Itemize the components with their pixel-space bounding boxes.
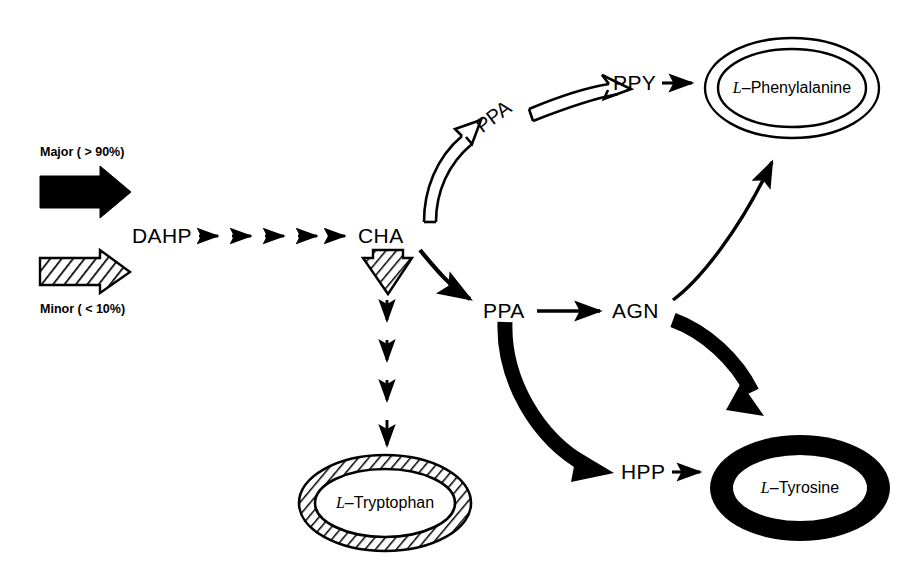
edge-ppa-to-hpp-major — [505, 322, 614, 482]
pathway-diagram: Major ( > 90%) Minor ( < 10%) DAHP CHA P… — [0, 0, 919, 575]
tyrosine-name: Tyrosine — [779, 479, 839, 496]
node-dahp[interactable]: DAHP — [132, 225, 192, 246]
node-hpp[interactable]: HPP — [621, 461, 665, 482]
tryptophan-stereo-prefix: L — [336, 494, 345, 511]
product-phenylalanine-label: L–Phenylalanine — [692, 80, 892, 96]
edge-cha-to-ppa — [420, 250, 470, 299]
edge-cha-minor-hatched-arrow — [363, 250, 412, 294]
legend-major-arrow — [40, 166, 131, 218]
node-ppy[interactable]: PPY — [613, 72, 656, 93]
phenylalanine-dash: – — [742, 79, 751, 96]
tyrosine-stereo-prefix: L — [761, 479, 770, 496]
edge-agn-to-tyrosine-major — [673, 320, 764, 416]
legend-minor-arrow — [40, 250, 130, 293]
node-ppa-lower[interactable]: PPA — [483, 300, 525, 321]
tryptophan-dash: – — [345, 494, 354, 511]
product-tyrosine-label: L–Tyrosine — [700, 480, 900, 496]
node-agn[interactable]: AGN — [612, 300, 659, 321]
product-tryptophan-label: L–Tryptophan — [285, 495, 485, 511]
tyrosine-dash: – — [770, 479, 779, 496]
phenylalanine-stereo-prefix: L — [733, 79, 742, 96]
node-cha[interactable]: CHA — [358, 225, 404, 246]
edge-cha-to-ppy-hollow-curve — [424, 75, 631, 222]
tryptophan-name: Tryptophan — [354, 494, 434, 511]
phenylalanine-name: Phenylalanine — [751, 79, 852, 96]
edge-agn-to-phenylalanine — [673, 162, 772, 300]
legend-minor-label: Minor ( < 10%) — [40, 303, 125, 316]
legend-major-label: Major ( > 90%) — [40, 146, 124, 159]
